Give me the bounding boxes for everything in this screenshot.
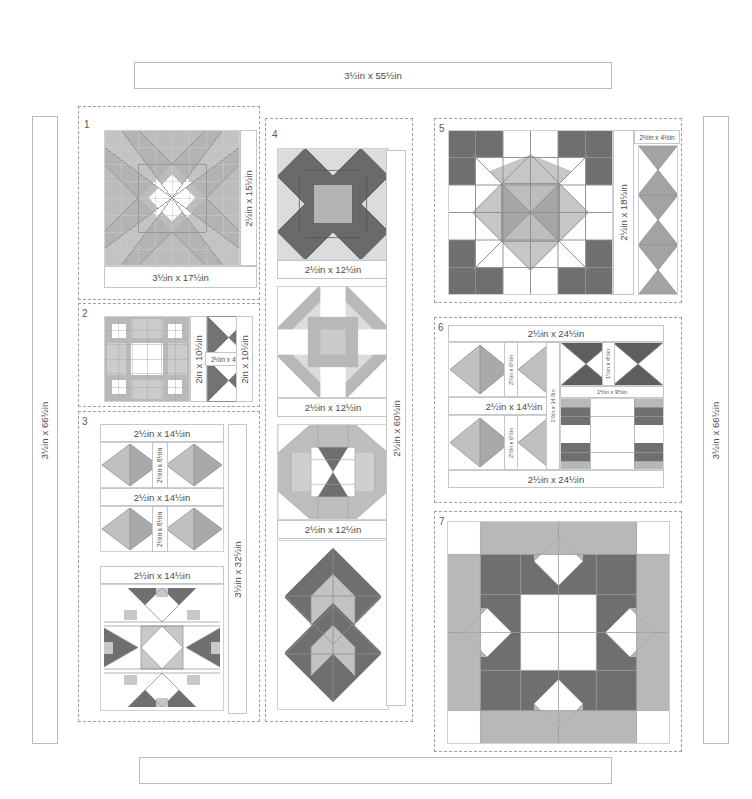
block-6-churn-block: [560, 398, 664, 470]
block-3-mid-label: 2½in x 14½in: [100, 488, 224, 506]
block-3-top-label: 2½in x 14½in: [100, 424, 224, 442]
block-1-quilt: [104, 130, 240, 266]
block-4-churn-dash: [277, 286, 389, 398]
block-4-octagon: [277, 424, 389, 520]
block-6-vertical-center-label: 1½in x 14.5in: [546, 342, 560, 470]
group-7-number: 7: [439, 517, 445, 527]
block-1-right-label: 2½in x 15½in: [240, 130, 257, 266]
block-6-bottom-label: 2½in x 24½in: [448, 470, 664, 488]
border-right-label: 3½in x 66½in: [711, 401, 722, 459]
block-3-vertical-label-2: 2½in x 6½in: [152, 506, 168, 552]
border-strip-right: 3½in x 66½in: [703, 116, 729, 744]
block-4-label-1: 2½in x 12½in: [277, 260, 389, 279]
block-6-small-horizontal-label: 1½in x 9½in: [560, 386, 664, 398]
block-3-vertical-label-1: 2½in x 6½in: [152, 442, 168, 488]
group-4-number: 4: [272, 130, 278, 140]
group-5-number: 5: [439, 124, 445, 134]
block-4-label-2: 2½in x 12½in: [277, 398, 389, 417]
block-5-strip-label: 2½in x 4½in: [634, 130, 680, 144]
block-4-right-label: 2½in x 60½in: [386, 150, 406, 706]
group-1-number: 1: [84, 120, 90, 130]
block-2-quilt: [104, 316, 190, 402]
block-6-vertical-label-2: 2½in x 6½in: [504, 415, 518, 470]
block-3-star-quilt: [100, 584, 224, 711]
block-6-small-vertical-label: 1½in x 4½in: [602, 342, 615, 386]
block-6-top-label: 2½in x 24½in: [448, 325, 664, 342]
block-5-right-label: 2½in x 18½in: [613, 130, 634, 295]
block-2-right-label: 2in x 10½in: [236, 316, 253, 402]
block-5-hourglass-column: [638, 145, 678, 295]
block-3-right-label: 3½in x 32½in: [228, 424, 247, 714]
block-4-double-diamond: [277, 540, 389, 710]
block-4-label-3: 2½in x 12½in: [277, 520, 389, 539]
border-strip-bottom: [139, 757, 612, 784]
block-6-vertical-label-1: 2½in x 6½in: [504, 342, 518, 397]
block-5-quilt: [448, 130, 613, 295]
block-7-quilt: [447, 521, 670, 744]
border-strip-left: 3½in x 66½in: [32, 116, 58, 744]
block-3-lower-label: 2½in x 14½in: [100, 566, 224, 584]
group-2-number: 2: [82, 309, 88, 319]
group-6-number: 6: [438, 323, 444, 333]
border-left-label: 3½in x 66½in: [40, 401, 51, 459]
block-4-star-dark: [277, 148, 389, 260]
border-top-label: 3½in x 55½in: [344, 70, 402, 81]
block-1-bottom-label: 3½in x 17½in: [104, 266, 257, 288]
group-3-number: 3: [82, 417, 88, 427]
border-strip-top: 3½in x 55½in: [134, 62, 612, 89]
